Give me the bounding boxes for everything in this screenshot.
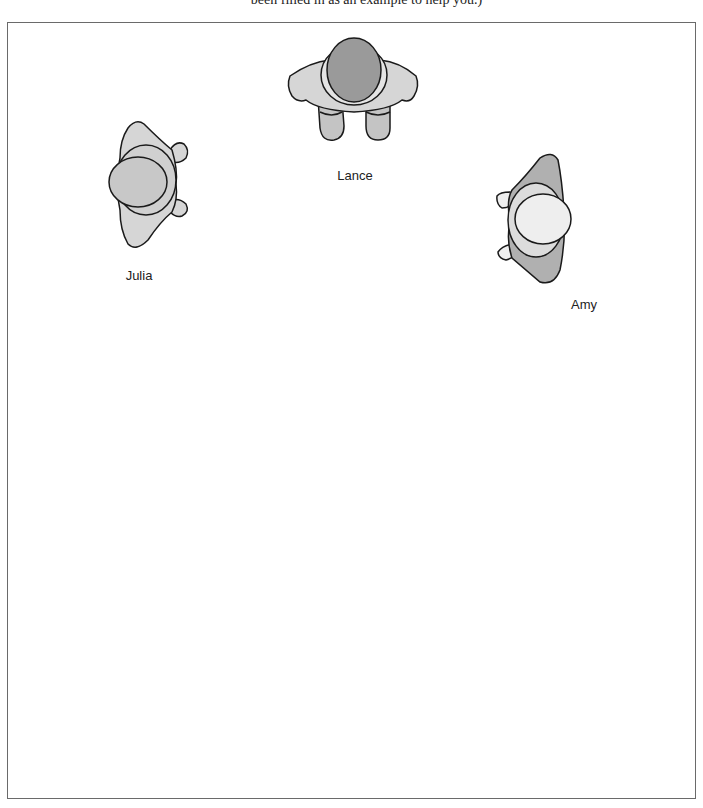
- lance-figure: [288, 38, 417, 140]
- lance-head: [327, 38, 381, 102]
- amy-label: Amy: [571, 297, 597, 312]
- amy-figure: [497, 154, 571, 282]
- amy-head: [515, 194, 571, 244]
- julia-head: [109, 157, 167, 207]
- people-diagram: [0, 0, 703, 808]
- julia-figure: [109, 122, 188, 247]
- julia-label: Julia: [126, 268, 153, 283]
- lance-label: Lance: [337, 168, 372, 183]
